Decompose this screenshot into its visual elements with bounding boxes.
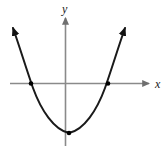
x-axis-label: x (154, 77, 161, 91)
parabola-figure: y x (0, 0, 168, 147)
point-right-x-intercept (106, 81, 111, 86)
graph-canvas: y x (0, 0, 168, 147)
point-vertex (67, 131, 72, 136)
y-axis-label: y (61, 2, 68, 16)
point-left-x-intercept (29, 81, 34, 86)
parabola-curve (13, 28, 125, 133)
